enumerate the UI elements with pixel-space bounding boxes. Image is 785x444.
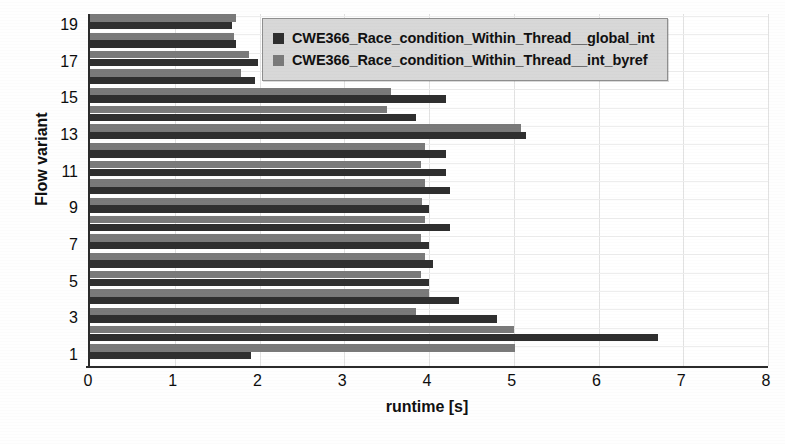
x-axis-tick-labels: 012345678	[0, 372, 785, 398]
bar-series-0-category-17	[90, 59, 258, 66]
y-tick-label-15: 15	[60, 90, 78, 106]
bar-series-1-category-8	[90, 216, 425, 223]
bar-series-0-category-1	[90, 352, 251, 359]
gridline-vertical	[768, 14, 769, 366]
x-axis-line	[86, 366, 768, 368]
legend-item-label: CWE366_Race_condition_Within_Thread__int…	[292, 52, 647, 68]
bar-series-1-category-10	[90, 179, 425, 186]
bar-series-0-category-6	[90, 260, 433, 267]
x-tick-label-1: 1	[168, 372, 177, 390]
bar-series-1-category-6	[90, 253, 425, 260]
bar-series-1-category-18	[90, 33, 234, 40]
legend-item: CWE366_Race_condition_Within_Thread__glo…	[273, 27, 655, 49]
bar-series-1-category-12	[90, 143, 425, 150]
bar-series-1-category-16	[90, 69, 241, 76]
y-tick-label-5: 5	[69, 274, 78, 290]
x-tick-label-0: 0	[84, 372, 93, 390]
x-tick-label-6: 6	[592, 372, 601, 390]
x-axis-title: runtime [s]	[88, 398, 766, 416]
y-tick-label-1: 1	[69, 347, 78, 363]
x-tick-label-5: 5	[507, 372, 516, 390]
bar-series-1-category-15	[90, 88, 391, 95]
x-tick-label-4: 4	[423, 372, 432, 390]
bar-series-1-category-4	[90, 289, 429, 296]
bar-series-0-category-16	[90, 77, 255, 84]
bar-series-0-category-2	[90, 334, 658, 341]
bar-series-0-category-19	[90, 22, 232, 29]
bar-series-0-category-5	[90, 279, 429, 286]
legend-item-label: CWE366_Race_condition_Within_Thread__glo…	[292, 30, 655, 46]
legend-swatch-icon	[273, 33, 284, 44]
y-tick-label-3: 3	[69, 310, 78, 326]
bar-series-0-category-12	[90, 150, 446, 157]
legend-item: CWE366_Race_condition_Within_Thread__int…	[273, 49, 655, 71]
bar-series-1-category-5	[90, 271, 421, 278]
x-tick-label-7: 7	[677, 372, 686, 390]
y-tick-label-9: 9	[69, 200, 78, 216]
bar-series-0-category-8	[90, 224, 450, 231]
y-tick-label-17: 17	[60, 54, 78, 70]
x-tick-label-8: 8	[762, 372, 771, 390]
bar-series-1-category-13	[90, 124, 521, 131]
y-tick-label-13: 13	[60, 127, 78, 143]
bar-series-0-category-11	[90, 169, 446, 176]
bar-series-1-category-17	[90, 51, 249, 58]
y-tick-label-7: 7	[69, 237, 78, 253]
bar-series-1-category-9	[90, 198, 422, 205]
legend-swatch-icon	[273, 55, 284, 66]
bar-series-0-category-13	[90, 132, 526, 139]
bar-series-0-category-15	[90, 95, 446, 102]
bar-series-1-category-1	[90, 344, 515, 351]
bar-series-0-category-4	[90, 297, 459, 304]
x-tick-label-3: 3	[338, 372, 347, 390]
bar-series-1-category-11	[90, 161, 421, 168]
y-tick-label-11: 11	[61, 164, 78, 180]
chart-legend: CWE366_Race_condition_Within_Thread__glo…	[262, 18, 668, 81]
chart-figure: Flow variant 135791113151719 012345678 r…	[0, 0, 785, 444]
bar-series-0-category-14	[90, 114, 416, 121]
bar-series-1-category-19	[90, 14, 236, 21]
y-tick-label-19: 19	[60, 17, 78, 33]
bar-series-1-category-2	[90, 326, 514, 333]
bar-series-1-category-14	[90, 106, 387, 113]
bar-series-0-category-9	[90, 205, 429, 212]
bar-series-1-category-3	[90, 308, 416, 315]
bar-series-0-category-3	[90, 315, 497, 322]
bar-series-0-category-7	[90, 242, 429, 249]
x-tick-label-2: 2	[253, 372, 262, 390]
bar-series-1-category-7	[90, 234, 421, 241]
bar-series-0-category-18	[90, 40, 236, 47]
bar-series-0-category-10	[90, 187, 450, 194]
